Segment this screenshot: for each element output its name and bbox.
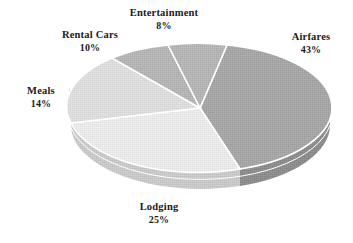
slice-label-lodging: Lodging 25% <box>104 200 214 226</box>
slice-label-meals-name: Meals <box>27 85 55 96</box>
pie-top-face <box>67 43 332 172</box>
slice-label-airfares: Airfares 43% <box>272 30 350 56</box>
slice-label-rental-cars-percent: 10% <box>35 41 145 54</box>
slice-label-entertainment-name: Entertainment <box>130 7 199 18</box>
slice-label-airfares-name: Airfares <box>292 31 331 42</box>
slice-label-meals-percent: 14% <box>2 97 80 110</box>
pie-chart-page: Entertainment 8% Rental Cars 10% Airfare… <box>0 0 353 243</box>
slice-label-meals: Meals 14% <box>2 84 80 110</box>
slice-label-lodging-percent: 25% <box>104 213 214 226</box>
slice-label-rental-cars-name: Rental Cars <box>62 29 118 40</box>
slice-label-rental-cars: Rental Cars 10% <box>35 28 145 54</box>
slice-label-airfares-percent: 43% <box>272 43 350 56</box>
slice-label-lodging-name: Lodging <box>140 201 179 212</box>
